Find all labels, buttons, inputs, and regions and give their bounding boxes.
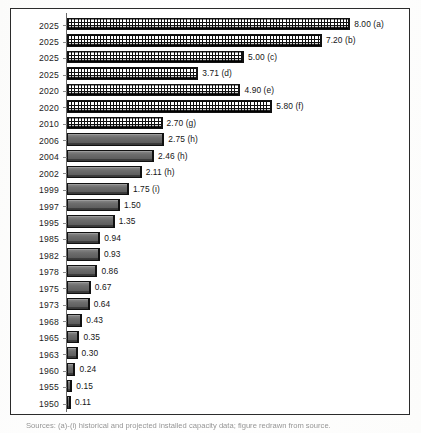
bar [67, 314, 82, 326]
bar-end-cap [80, 314, 82, 326]
bar [67, 166, 142, 178]
bar-value-label: 0.30 [82, 347, 99, 359]
bar-with-label: 0.67 [67, 281, 111, 293]
bar-value-label: 0.64 [94, 298, 111, 310]
bar [67, 380, 72, 392]
bar-with-label: 7.20 (b) [67, 34, 356, 46]
bar-end-cap [77, 331, 79, 343]
bar [67, 133, 164, 145]
bar-with-label: 4.90 (e) [67, 84, 274, 96]
bar-value-label: 8.00 (a) [354, 18, 384, 30]
bar-value-label: 0.11 [75, 396, 91, 408]
bar-end-cap [76, 347, 78, 359]
bar-with-label: 0.24 [67, 363, 96, 375]
bar-with-label: 0.15 [67, 380, 93, 392]
bar-value-label: 1.50 [124, 199, 141, 211]
bar [67, 248, 100, 260]
bar-value-label: 4.90 (e) [244, 84, 274, 96]
bar [67, 331, 79, 343]
bar-with-label: 0.64 [67, 298, 110, 310]
bar-end-cap [140, 166, 142, 178]
bar-with-label: 5.00 (c) [67, 51, 277, 63]
figure-caption: Sources: (a)-(i) historical and projecte… [26, 421, 418, 430]
bar-end-cap [348, 18, 350, 30]
bar-with-label: 3.71 (d) [67, 67, 232, 79]
bar [67, 347, 78, 359]
bar-with-label: 1.35 [67, 215, 135, 227]
bar-value-label: 2.70 (g) [167, 117, 197, 129]
bar [67, 100, 272, 112]
bar [67, 265, 97, 277]
bar [67, 281, 91, 293]
bar-value-label: 1.35 [119, 215, 136, 227]
bar-end-cap [69, 396, 71, 408]
bar-end-cap [98, 248, 100, 260]
bar-value-label: 0.35 [83, 331, 100, 343]
bar-value-label: 0.94 [104, 232, 121, 244]
figure-container: 20258.00 (a)20257.20 (b)20255.00 (c)2025… [0, 0, 421, 433]
bar [67, 18, 350, 30]
bar-value-label: 2.11 (h) [146, 166, 175, 178]
bar [67, 84, 240, 96]
bar-end-cap [270, 100, 272, 112]
bar-with-label: 0.94 [67, 232, 121, 244]
bar-value-label: 0.24 [79, 363, 96, 375]
bar-value-label: 2.75 (h) [168, 133, 198, 145]
bar-value-label: 5.80 (f) [276, 100, 303, 112]
bar-with-label: 0.43 [67, 314, 103, 326]
bar [67, 67, 198, 79]
bar [67, 232, 100, 244]
bar-end-cap [161, 117, 163, 129]
bar-end-cap [98, 232, 100, 244]
bar-value-label: 0.43 [86, 314, 103, 326]
bar [67, 215, 115, 227]
bar-with-label: 0.30 [67, 347, 98, 359]
bar [67, 199, 120, 211]
bar-value-label: 0.15 [76, 380, 93, 392]
bar-value-label: 5.00 (c) [248, 51, 277, 63]
bar-end-cap [113, 215, 115, 227]
bar-end-cap [73, 363, 75, 375]
bar-end-cap [162, 133, 164, 145]
bar-with-label: 2.75 (h) [67, 133, 198, 145]
bar-end-cap [88, 298, 90, 310]
bar-end-cap [89, 281, 91, 293]
bar-with-label: 2.11 (h) [67, 166, 175, 178]
bar-value-label: 0.67 [95, 281, 112, 293]
bar-end-cap [238, 84, 240, 96]
bar-with-label: 2.70 (g) [67, 117, 196, 129]
bar-with-label: 0.93 [67, 248, 121, 260]
chart-plot-frame: 20258.00 (a)20257.20 (b)20255.00 (c)2025… [10, 8, 410, 415]
bar-row: 19500.11 [11, 394, 409, 414]
bar-with-label: 1.50 [67, 199, 141, 211]
bar-year-label: 1950 [11, 396, 59, 412]
bar [67, 396, 71, 408]
bar-with-label: 8.00 (a) [67, 18, 384, 30]
bar [67, 51, 244, 63]
bar-with-label: 0.86 [67, 265, 118, 277]
bar [67, 150, 154, 162]
bar-with-label: 2.46 (h) [67, 150, 188, 162]
bar [67, 298, 90, 310]
bar-value-label: 0.86 [101, 265, 118, 277]
bar-end-cap [95, 265, 97, 277]
bar-value-label: 2.46 (h) [158, 150, 188, 162]
bar [67, 117, 163, 129]
bar-value-label: 0.93 [104, 248, 121, 260]
bar [67, 363, 75, 375]
bar-with-label: 1.75 (i) [67, 183, 160, 195]
bar [67, 34, 322, 46]
bar-with-label: 0.11 [67, 396, 91, 408]
bar-value-label: 1.75 (i) [133, 183, 160, 195]
bar-with-label: 5.80 (f) [67, 100, 304, 112]
bar-end-cap [152, 150, 154, 162]
bar-end-cap [242, 51, 244, 63]
bar-end-cap [196, 67, 198, 79]
bar-end-cap [118, 199, 120, 211]
bar-value-label: 7.20 (b) [326, 34, 356, 46]
chart-plot-area: 20258.00 (a)20257.20 (b)20255.00 (c)2025… [11, 9, 409, 414]
bar-with-label: 0.35 [67, 331, 100, 343]
bar-end-cap [127, 183, 129, 195]
bar-value-label: 3.71 (d) [202, 67, 232, 79]
bar-end-cap [70, 380, 72, 392]
